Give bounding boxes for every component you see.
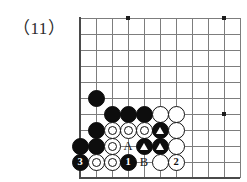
black-stone-move-1[interactable]: 1 (120, 154, 137, 171)
move-number: 3 (77, 157, 82, 168)
white-stone[interactable] (104, 154, 121, 171)
white-stone[interactable] (120, 122, 137, 139)
white-stone[interactable] (136, 122, 153, 139)
black-stone-triangle[interactable] (136, 138, 153, 155)
black-stone[interactable] (72, 138, 89, 155)
white-stone[interactable] (152, 154, 169, 171)
white-stone[interactable] (152, 106, 169, 123)
white-stone-move-2[interactable]: 2 (168, 154, 185, 171)
black-stone[interactable] (88, 138, 105, 155)
black-stone[interactable] (120, 106, 137, 123)
move-number: 2 (173, 157, 178, 168)
white-stone[interactable] (88, 154, 105, 171)
black-stone[interactable] (136, 106, 153, 123)
white-stone[interactable] (104, 122, 121, 139)
black-stone[interactable] (88, 122, 105, 139)
diagram-root: （11） 312AB (0, 0, 247, 182)
black-stone-triangle[interactable] (152, 138, 169, 155)
white-stone[interactable] (168, 106, 185, 123)
white-stone[interactable] (168, 138, 185, 155)
point-label-A[interactable]: A (120, 138, 137, 155)
stones-layer: 312AB (0, 0, 247, 182)
triangle-marker-icon (140, 143, 148, 150)
white-stone[interactable] (168, 122, 185, 139)
white-stone[interactable] (104, 138, 121, 155)
point-label-B[interactable]: B (136, 154, 153, 171)
black-stone[interactable] (88, 90, 105, 107)
black-stone-triangle[interactable] (152, 122, 169, 139)
triangle-marker-icon (156, 143, 164, 150)
black-stone-move-3[interactable]: 3 (72, 154, 89, 171)
black-stone[interactable] (104, 106, 121, 123)
move-number: 1 (125, 157, 130, 168)
triangle-marker-icon (156, 127, 164, 134)
